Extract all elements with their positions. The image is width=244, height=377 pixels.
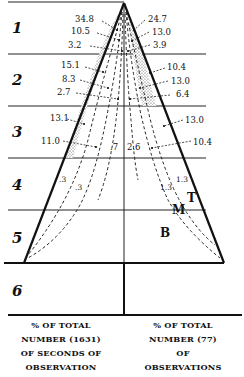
left-axis-caption: % OF TOTAL NUMBER (1631) OF SECONDS OF O… bbox=[2, 318, 120, 374]
zone-label-4: 4 bbox=[12, 176, 22, 194]
right-value: 2.6 bbox=[127, 142, 141, 152]
left-value: 11.0 bbox=[41, 136, 60, 146]
left-value: 34.8 bbox=[75, 14, 94, 24]
caption-line: % OF TOTAL bbox=[2, 318, 120, 332]
left-value: 8.3 bbox=[62, 74, 76, 84]
right-value: 6.4 bbox=[176, 89, 190, 99]
zone-label-6: 6 bbox=[12, 282, 23, 300]
caption-line: NUMBER (77) bbox=[124, 332, 242, 346]
curve-label-t: T bbox=[187, 191, 196, 205]
caption-line: % OF TOTAL bbox=[124, 318, 242, 332]
triangle-outline bbox=[4, 3, 224, 263]
curve-label-m: M bbox=[172, 203, 185, 217]
left-value: 3.2 bbox=[68, 40, 82, 50]
caption-line: OF bbox=[124, 346, 242, 360]
zone-label-2: 2 bbox=[11, 71, 22, 89]
right-value: 13.0 bbox=[152, 27, 171, 37]
caption-line: OBSERVATION bbox=[2, 360, 120, 374]
zone-label-1: 1 bbox=[12, 19, 22, 37]
zone-labels: 1 2 3 4 5 6 bbox=[11, 19, 23, 300]
left-value: .7 bbox=[110, 142, 118, 152]
left-value: .3 bbox=[75, 183, 82, 192]
left-value: 10.5 bbox=[71, 26, 90, 36]
right-value: 24.7 bbox=[148, 14, 167, 24]
left-value: .3 bbox=[59, 175, 66, 184]
right-value: 10.4 bbox=[167, 62, 186, 72]
right-axis-caption: % OF TOTAL NUMBER (77) OF OBSERVATIONS bbox=[124, 318, 242, 374]
left-value: 15.1 bbox=[61, 60, 80, 70]
right-value: 1.3 bbox=[176, 175, 188, 184]
right-value: 13.0 bbox=[185, 115, 204, 125]
caption-line: OF SECONDS OF bbox=[2, 346, 120, 360]
curve-label-b: B bbox=[160, 226, 170, 240]
caption-line: NUMBER (1631) bbox=[2, 332, 120, 346]
right-values: 24.7 13.0 3.9 10.4 13.0 6.4 13.0 10.4 2.… bbox=[127, 14, 212, 192]
right-value: 1.3 bbox=[160, 183, 172, 192]
right-value: 10.4 bbox=[193, 137, 212, 147]
zone-label-3: 3 bbox=[12, 123, 22, 141]
left-value: 2.7 bbox=[57, 87, 71, 97]
right-value: 3.9 bbox=[153, 40, 167, 50]
zone-label-5: 5 bbox=[12, 229, 22, 247]
left-value: 13.1 bbox=[50, 113, 69, 123]
caption-line: OBSERVATIONS bbox=[124, 360, 242, 374]
right-value: 13.0 bbox=[171, 76, 190, 86]
